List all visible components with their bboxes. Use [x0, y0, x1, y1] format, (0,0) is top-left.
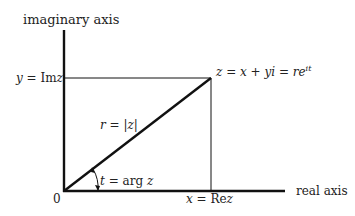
angle-z-text: z: [147, 174, 153, 188]
z-var-text-2: z: [227, 192, 233, 206]
z-var-text: z: [57, 71, 63, 85]
im-text: Im: [40, 71, 56, 85]
z-point-lhs: z = x + yi = re: [216, 65, 306, 79]
y-eq-text: y =: [16, 71, 40, 85]
x-re-z-label: x = Rez: [186, 193, 233, 205]
angle-label: t = arg z: [100, 175, 153, 187]
re-text: Re: [210, 192, 226, 206]
z-point-label: z = x + yi = reit: [216, 65, 311, 78]
imaginary-axis-label: imaginary axis: [23, 13, 119, 26]
real-axis-label: real axis: [296, 185, 348, 197]
x-eq-text: x =: [186, 192, 210, 206]
angle-eq-text: = arg: [105, 174, 147, 188]
z-point-exponent: it: [306, 64, 312, 73]
radius-label: r = |z|: [100, 119, 138, 131]
origin-label: 0: [53, 193, 61, 205]
complex-plane-diagram: imaginary axis y = Imz z = x + yi = reit…: [0, 0, 355, 216]
y-im-z-label: y = Imz: [16, 72, 63, 84]
